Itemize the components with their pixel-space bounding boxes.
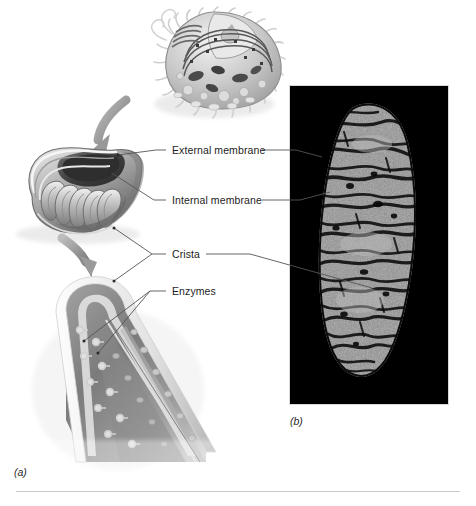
label-external-membrane: External membrane <box>172 144 265 156</box>
figure-divider-rule <box>16 491 460 492</box>
leader-internal-left <box>110 172 154 200</box>
electron-micrograph-panel <box>290 86 448 404</box>
crista-detail <box>32 277 240 470</box>
label-crista: Crista <box>172 248 200 260</box>
mitochondrion-cutaway <box>16 148 144 244</box>
figure-mitochondria: External membrane Internal membrane Cris… <box>0 0 476 506</box>
leader-external-left <box>118 150 156 155</box>
leader-crista-down <box>114 254 152 281</box>
caption-panel-b: (b) <box>290 415 303 427</box>
leader-endpoint-dots <box>83 154 120 355</box>
arrow-mitochondrion-to-crista <box>62 238 97 278</box>
caption-panel-a: (a) <box>14 466 27 478</box>
leader-enzymes-b <box>98 291 150 353</box>
animal-cell-cutaway <box>152 7 285 118</box>
label-enzymes: Enzymes <box>172 285 216 297</box>
micrograph-image <box>290 86 448 404</box>
enzyme-particles <box>77 327 196 448</box>
arrow-cell-to-mitochondrion <box>88 100 126 154</box>
leader-crista-up <box>114 228 152 254</box>
label-internal-membrane: Internal membrane <box>172 194 262 206</box>
leader-enzymes-a <box>84 291 150 341</box>
